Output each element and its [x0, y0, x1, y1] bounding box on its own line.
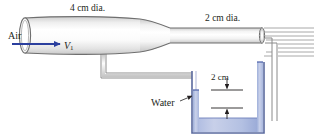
label-velocity-v1: V1 — [64, 41, 74, 52]
water-left-column — [193, 90, 199, 132]
label-inlet-diameter: 4 cm dia. — [70, 4, 105, 14]
inlet-duct-4cm — [19, 17, 140, 55]
dimension-2cm — [211, 78, 243, 119]
label-air: Air — [8, 31, 21, 41]
water-pool — [193, 118, 263, 132]
label-water: Water — [151, 98, 175, 108]
manometer-riser-tube — [272, 60, 277, 121]
outlet-duct-2cm — [170, 28, 265, 44]
label-outlet-diameter: 2 cm dia. — [205, 14, 240, 24]
converging-nozzle — [140, 19, 170, 52]
water-right-column — [257, 62, 263, 132]
label-manometer-height: 2 cm — [211, 73, 229, 82]
water-leader-line — [180, 96, 192, 101]
flow-schematic-figure — [0, 0, 314, 139]
discharge-elbow — [265, 38, 277, 60]
velocity-subscript: 1 — [70, 44, 74, 52]
pressure-tap-tube — [101, 52, 192, 78]
